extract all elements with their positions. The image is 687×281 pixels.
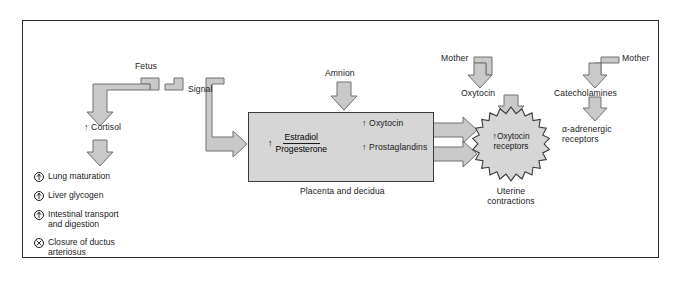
cortisol-up-arrow-icon: ↑: [84, 122, 89, 132]
progesterone-label: Progesterone: [276, 144, 328, 155]
outcome-intestinal-transport: Intestinal transport and digestion: [34, 209, 134, 229]
outcome-label: Intestinal transport and digestion: [48, 209, 134, 229]
up-arrow-circle-icon: [34, 191, 44, 201]
cortisol-label: Cortisol: [91, 122, 121, 132]
estradiol-progesterone-ratio: ↑ Estradiol Progesterone: [268, 132, 327, 154]
up-arrow-circle-icon: [34, 210, 44, 220]
uterine-contractions-caption-line1: Uterine: [481, 186, 541, 197]
outcome-ductus-arteriosus: Closure of ductus arteriosus: [34, 237, 134, 257]
oxytocin-receptors-label-group: ↑Oxytocin receptors: [478, 131, 544, 151]
ratio-up-arrow-icon: ↑: [268, 139, 273, 148]
outcome-label: Lung maturation: [48, 171, 110, 181]
catecholamines-to-receptors-arrow: [583, 97, 607, 121]
cortisol-to-outcomes-arrow: [87, 140, 113, 166]
mother-catecholamines-label: Mother: [622, 53, 649, 64]
outcome-label: Liver glycogen: [48, 190, 103, 200]
signal-source-bracket: [165, 78, 183, 90]
placenta-oxytocin-output: ↑ Oxytocin: [362, 118, 403, 129]
up-arrow-circle-icon: [34, 172, 44, 182]
outcome-lung-maturation: Lung maturation: [34, 171, 110, 182]
uterine-contractions-caption-line2: contractions: [476, 196, 546, 207]
oxytocin-receptors-line1: Oxytocin: [497, 131, 530, 141]
catecholamines-label: Catecholamines: [554, 88, 617, 99]
fetus-label: Fetus: [135, 61, 157, 72]
x-circle-icon: [34, 238, 44, 248]
diagram-canvas: .ar { fill: #c9c9c9; stroke: #707070; st…: [0, 0, 687, 281]
signal-label: Signal: [188, 84, 213, 95]
cortisol-label-group: ↑ Cortisol: [84, 122, 121, 133]
oxytocin-up-arrow-icon: ↑: [362, 118, 367, 128]
alpha-adrenergic-receptors-label-line2: receptors: [562, 134, 599, 145]
mother-oxytocin-label: Mother: [441, 53, 468, 64]
maternal-oxytocin-label: Oxytocin: [461, 88, 495, 99]
placenta-caption: Placenta and decidua: [300, 186, 385, 197]
outcome-liver-glycogen: Liver glycogen: [34, 190, 103, 201]
fetus-to-cortisol-arrow: [87, 84, 150, 126]
prostaglandins-up-arrow-icon: ↑: [362, 142, 367, 152]
outcome-label: Closure of ductus arteriosus: [48, 237, 134, 257]
amnion-label: Amnion: [325, 68, 355, 79]
placenta-prostaglandins-output: ↑ Prostaglandins: [362, 142, 427, 153]
amnion-to-placenta-arrow: [331, 82, 357, 110]
oxytocin-receptors-line2: receptors: [494, 141, 529, 151]
mother-to-catecholamines-arrow: [583, 63, 607, 88]
oxytocin-output-label: Oxytocin: [369, 118, 403, 128]
prostaglandins-output-label: Prostaglandins: [369, 142, 427, 152]
alpha-adrenergic-receptors-label-line1: α-adrenergic: [562, 124, 612, 135]
estradiol-label: Estradiol: [283, 132, 320, 144]
